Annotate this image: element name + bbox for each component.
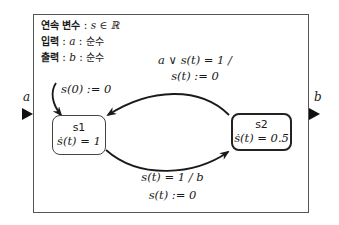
state-name: s1 xyxy=(53,121,105,134)
input-port-icon xyxy=(22,108,33,120)
state-flow: ṡ(t) = 0.5 xyxy=(233,131,290,145)
transition-s2-s1-guard: a ∨ s(t) = 1 / xyxy=(140,53,250,67)
transition-s2-s1-action: s(t) := 0 xyxy=(140,69,250,83)
state-name: s2 xyxy=(233,118,290,131)
initial-arrow xyxy=(53,83,61,115)
state-s1[interactable]: s1 ṡ(t) = 1 xyxy=(52,115,106,155)
initial-action-label: s(0) := 0 xyxy=(61,82,111,96)
transition-s1-s2-guard: s(t) = 1 / b xyxy=(120,170,225,184)
transition-s2-s1 xyxy=(108,94,229,115)
state-s2[interactable]: s2 ṡ(t) = 0.5 xyxy=(231,113,292,151)
output-port-icon xyxy=(309,108,320,120)
transition-s1-s2 xyxy=(106,150,228,171)
hybrid-automaton-diagram: 연속 변수 : s ∈ ℝ 입력 : a : 순수 출력 : b : 순수 a … xyxy=(0,0,339,225)
transition-s1-s2-action: s(t) := 0 xyxy=(120,188,225,202)
state-flow: ṡ(t) = 1 xyxy=(53,134,105,148)
